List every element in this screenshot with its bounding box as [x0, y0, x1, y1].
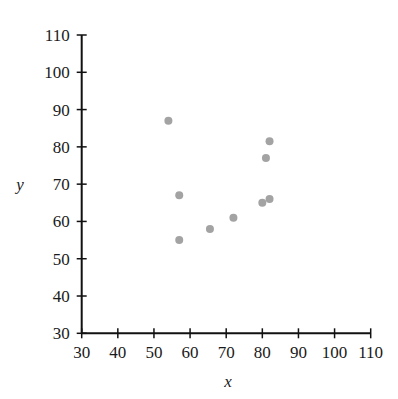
x-axis: 30405060708090100110: [73, 328, 383, 362]
y-tick-label: 60: [53, 212, 70, 231]
x-tick-label: 60: [182, 343, 199, 362]
y-tick-label: 70: [53, 175, 70, 194]
y-tick-label: 50: [53, 250, 70, 269]
data-point: [164, 117, 172, 125]
data-point: [175, 191, 183, 199]
y-axis-label: y: [14, 175, 24, 194]
data-point: [206, 225, 214, 233]
x-axis-label: x: [223, 372, 232, 391]
data-point: [262, 154, 270, 162]
x-tick-label: 30: [73, 343, 90, 362]
data-point: [266, 195, 274, 203]
data-points: [164, 117, 273, 244]
x-tick-label: 80: [254, 343, 271, 362]
y-tick-label: 90: [53, 101, 70, 120]
scatter-plot: 30405060708090100110 3040506070809010011…: [0, 0, 398, 399]
x-tick-label: 90: [290, 343, 307, 362]
y-tick-label: 80: [53, 138, 70, 157]
x-tick-label: 50: [145, 343, 162, 362]
data-point: [175, 236, 183, 244]
y-tick-label: 110: [45, 26, 70, 45]
data-point: [266, 137, 274, 145]
y-tick-label: 100: [44, 63, 70, 82]
y-tick-label: 40: [53, 287, 70, 306]
data-point: [258, 199, 266, 207]
data-point: [229, 214, 237, 222]
y-axis: 30405060708090100110: [44, 26, 87, 343]
x-tick-label: 100: [322, 343, 348, 362]
y-tick-label: 30: [53, 324, 70, 343]
x-tick-label: 40: [109, 343, 126, 362]
x-tick-label: 70: [218, 343, 235, 362]
x-tick-label: 110: [358, 343, 383, 362]
